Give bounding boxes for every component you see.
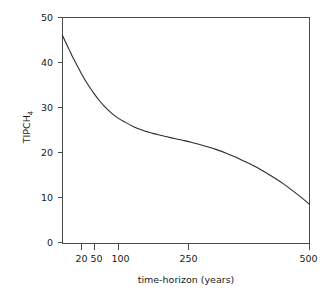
ytick-label-20: 20 [41, 147, 53, 158]
xtick-label-20: 20 [75, 253, 87, 264]
x-axis-tick-marks [82, 244, 310, 250]
xtick-label-50: 50 [90, 253, 102, 264]
x-axis-title: time-horizon (years) [138, 274, 235, 285]
xtick-label-500: 500 [299, 253, 317, 264]
ytick-label-50: 50 [41, 12, 53, 23]
x-axis-tick-labels: 20 50 100 250 500 [75, 253, 317, 264]
data-series-curve [63, 36, 310, 205]
y-axis-title-subscript: 4 [27, 110, 35, 115]
plot-frame [63, 18, 310, 244]
ytick-label-10: 10 [41, 192, 53, 203]
ytick-label-0: 0 [47, 237, 53, 248]
y-axis-title-text: TIPCH [21, 115, 32, 144]
y-axis-tick-labels: 50 40 30 20 10 0 [41, 12, 53, 248]
svg-text:TIPCH4: TIPCH4 [21, 110, 35, 144]
y-axis-title: TIPCH4 [21, 110, 35, 144]
ytick-label-40: 40 [41, 57, 53, 68]
ytick-label-30: 30 [41, 102, 53, 113]
xtick-label-250: 250 [179, 253, 197, 264]
line-chart: 50 40 30 20 10 0 20 50 100 250 500 time-… [0, 0, 332, 299]
xtick-label-100: 100 [111, 253, 129, 264]
y-axis-tick-marks [58, 18, 63, 243]
figure-container: 50 40 30 20 10 0 20 50 100 250 500 time-… [0, 0, 332, 299]
